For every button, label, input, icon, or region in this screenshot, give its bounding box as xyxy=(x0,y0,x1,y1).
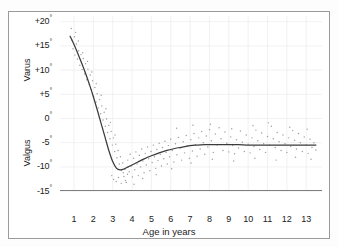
y-axis-label-valgus: Valgus xyxy=(22,130,32,176)
y-axis-label-varus: Varus xyxy=(22,50,32,90)
x-tick-6: 6 xyxy=(163,215,179,224)
scatter-points xyxy=(71,28,317,185)
x-tick-2: 2 xyxy=(85,215,101,224)
x-tick-4: 4 xyxy=(124,215,140,224)
x-tick-5: 5 xyxy=(143,215,159,224)
x-axis-title: Age in years xyxy=(0,226,338,237)
gridlines xyxy=(60,16,322,191)
figure-container: +20°+15°+10°+5°0°-5°-10°-15° 12345678910… xyxy=(0,0,338,247)
y-tick-0: 0° xyxy=(8,114,52,123)
x-tick-12: 12 xyxy=(279,215,295,224)
x-tick-13: 13 xyxy=(298,215,314,224)
x-tick-10: 10 xyxy=(240,215,256,224)
x-tick-8: 8 xyxy=(201,215,217,224)
fitted-curve xyxy=(70,36,316,170)
chart-plot-area xyxy=(0,0,338,247)
x-tick-3: 3 xyxy=(105,215,121,224)
x-tick-9: 9 xyxy=(221,215,237,224)
y-tick--15: -15° xyxy=(8,187,52,196)
x-tick-1: 1 xyxy=(66,215,82,224)
y-tick-20: +20° xyxy=(8,17,52,26)
y-tick-5: +5° xyxy=(8,90,52,99)
x-tick-7: 7 xyxy=(182,215,198,224)
x-tick-11: 11 xyxy=(260,215,276,224)
